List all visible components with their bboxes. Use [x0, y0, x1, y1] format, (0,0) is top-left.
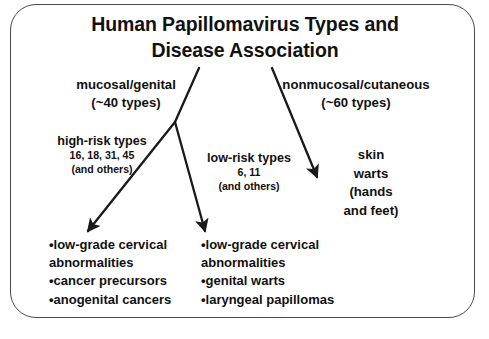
skin-warts-line-3: (hands [318, 183, 424, 202]
low-risk-outcomes-list: •low-grade cervical abnormalities •genit… [201, 236, 376, 309]
list-item: •anogenital cancers [49, 291, 199, 309]
high-risk-header: high-risk types [40, 133, 164, 149]
node-skin-warts: skin warts (hands and feet) [318, 146, 424, 221]
title-line-1: Human Papillomavirus Types and [45, 12, 445, 38]
list-item: •cancer precursors [49, 272, 199, 290]
high-risk-types: 16, 18, 31, 45 [40, 149, 164, 163]
high-risk-outcomes-list: •low-grade cervical abnormalities •cance… [49, 236, 199, 309]
node-mucosal-genital: mucosal/genital (~40 types) [60, 76, 192, 112]
skin-warts-line-2: warts [318, 165, 424, 184]
list-item: •laryngeal papillomas [201, 291, 376, 309]
node-low-risk-types: low-risk types 6, 11 (and others) [192, 150, 306, 193]
list-item: •genital warts [201, 272, 376, 290]
high-risk-note: (and others) [40, 163, 164, 177]
page-title: Human Papillomavirus Types and Disease A… [45, 12, 445, 63]
diagram-canvas: Human Papillomavirus Types and Disease A… [0, 0, 489, 339]
low-risk-note: (and others) [192, 180, 306, 194]
skin-warts-line-4: and feet) [318, 202, 424, 221]
node-high-risk-types: high-risk types 16, 18, 31, 45 (and othe… [40, 133, 164, 176]
low-risk-types: 6, 11 [192, 166, 306, 180]
list-item: •low-grade cervical abnormalities [49, 236, 199, 272]
node-nonmucosal-cutaneous-name: nonmucosal/cutaneous [282, 77, 429, 92]
node-nonmucosal-cutaneous: nonmucosal/cutaneous (~60 types) [276, 76, 436, 112]
skin-warts-line-1: skin [318, 146, 424, 165]
list-item: •low-grade cervical abnormalities [201, 236, 376, 272]
node-mucosal-genital-name: mucosal/genital [76, 77, 176, 92]
title-line-2: Disease Association [45, 38, 445, 64]
low-risk-header: low-risk types [192, 150, 306, 166]
node-nonmucosal-cutaneous-count: (~60 types) [321, 95, 390, 110]
node-mucosal-genital-count: (~40 types) [91, 95, 160, 110]
